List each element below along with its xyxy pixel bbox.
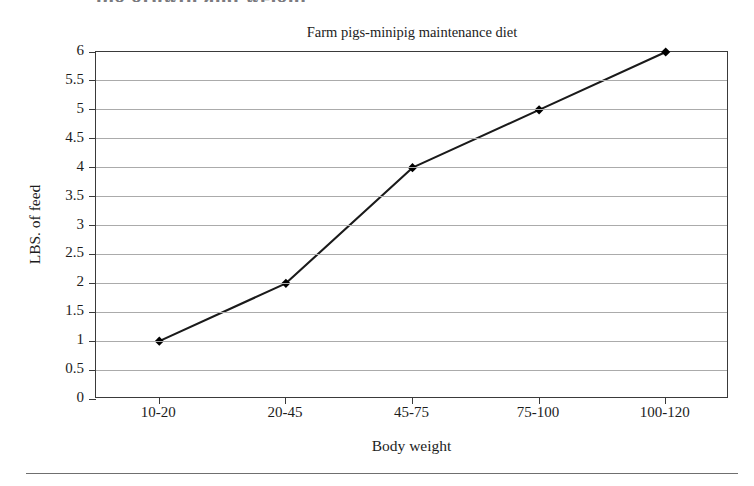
y-axis-tick-label: 0 bbox=[77, 390, 85, 405]
x-axis-tick bbox=[412, 397, 413, 404]
y-axis-tick-label: 6 bbox=[77, 43, 85, 58]
x-axis-tick bbox=[665, 397, 666, 404]
x-axis-tick-label: 10-20 bbox=[141, 404, 176, 421]
chart-figure: Farm pigs-minipig maintenance diet LBS. … bbox=[0, 0, 754, 486]
y-axis-tick bbox=[89, 52, 96, 53]
y-axis-tick bbox=[89, 312, 96, 313]
y-axis-tick bbox=[89, 109, 96, 110]
gridline bbox=[96, 283, 727, 284]
y-axis-tick-label: 4.5 bbox=[65, 130, 84, 145]
y-axis-tick-label: 3 bbox=[77, 217, 85, 232]
y-axis-tick bbox=[89, 341, 96, 342]
x-axis-tick-label: 20-45 bbox=[267, 404, 302, 421]
x-axis-tick bbox=[285, 397, 286, 404]
x-axis-tick-label: 45-75 bbox=[394, 404, 429, 421]
y-axis-tick bbox=[89, 283, 96, 284]
y-axis-tick bbox=[89, 80, 96, 81]
data-point-marker bbox=[661, 47, 670, 56]
gridline bbox=[96, 312, 727, 313]
page-bottom-rule bbox=[26, 473, 738, 474]
y-axis-tick bbox=[89, 138, 96, 139]
x-axis-tick-label: 100-120 bbox=[640, 404, 690, 421]
y-axis-tick bbox=[89, 225, 96, 226]
gridline bbox=[96, 254, 727, 255]
gridline bbox=[96, 167, 727, 168]
x-axis-title: Body weight bbox=[95, 436, 728, 455]
y-axis-tick bbox=[89, 254, 96, 255]
y-axis-tick bbox=[89, 399, 96, 400]
chart-title: Farm pigs-minipig maintenance diet bbox=[95, 23, 729, 41]
plot-area bbox=[95, 51, 728, 398]
y-axis-tick bbox=[89, 196, 96, 197]
x-axis-tick bbox=[539, 397, 540, 404]
gridline bbox=[96, 138, 727, 139]
y-axis-title: LBS. of feed bbox=[26, 51, 44, 398]
y-axis-tick-label: 3.5 bbox=[65, 188, 84, 203]
y-axis-tick-label: 5.5 bbox=[65, 72, 84, 87]
y-axis-tick bbox=[89, 370, 96, 371]
y-axis-tick-label: 1 bbox=[77, 332, 85, 347]
gridline bbox=[96, 109, 727, 110]
gridline bbox=[96, 225, 727, 226]
gridline bbox=[96, 196, 727, 197]
plot-inner bbox=[96, 52, 727, 397]
x-axis-tick bbox=[159, 397, 160, 404]
y-axis-tick-label: 0.5 bbox=[65, 361, 84, 376]
y-axis-tick-label: 5 bbox=[77, 101, 85, 116]
y-axis-tick-label: 4 bbox=[77, 159, 85, 174]
gridline bbox=[96, 341, 727, 342]
gridline bbox=[96, 80, 727, 81]
gridline bbox=[96, 370, 727, 371]
y-axis-tick-label: 2 bbox=[77, 274, 85, 289]
y-axis-tick bbox=[89, 167, 96, 168]
y-axis-tick-label: 2.5 bbox=[65, 245, 84, 260]
y-axis-tick-label: 1.5 bbox=[65, 303, 84, 318]
x-axis-tick-label: 75-100 bbox=[517, 404, 560, 421]
